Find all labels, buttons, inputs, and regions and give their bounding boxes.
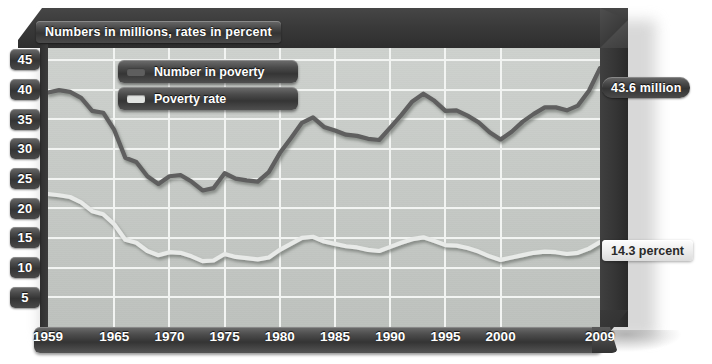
chart-subtitle-pill: Numbers in millions, rates in percent (36, 21, 281, 43)
callout-poverty-rate: 14.3 percent (602, 240, 693, 261)
chart-subtitle-text: Numbers in millions, rates in percent (45, 25, 272, 39)
y-axis-tick-10: 10 (10, 257, 40, 278)
legend-label-poverty-rate: Poverty rate (154, 92, 226, 106)
x-axis-tick-1980: 1980 (265, 329, 295, 344)
legend-item-number-in-poverty[interactable]: Number in poverty (118, 60, 298, 83)
legend-swatch-icon-poverty-rate (127, 95, 145, 103)
x-axis-tick-1990: 1990 (375, 329, 405, 344)
y-axis-tick-15: 15 (10, 227, 40, 248)
callout-number-in-poverty: 43.6 million (602, 77, 690, 98)
callout-number-in-poverty-text: 43.6 million (611, 81, 681, 95)
x-axis-tick-1975: 1975 (210, 329, 240, 344)
y-axis-tick-25: 25 (10, 168, 40, 189)
legend-item-poverty-rate[interactable]: Poverty rate (118, 87, 298, 110)
poverty-chart-figure: 45403530252015105 Numbers in millions, r… (0, 0, 712, 364)
y-axis-tick-20: 20 (10, 198, 40, 219)
x-axis-tick-2000: 2000 (486, 329, 516, 344)
x-axis-tick-2009: 2009 (585, 329, 615, 344)
y-axis-tick-30: 30 (10, 138, 40, 159)
x-axis-tick-1985: 1985 (320, 329, 350, 344)
frame-corner-shadow (612, 330, 682, 352)
x-axis-tick-1965: 1965 (99, 329, 129, 344)
chart-legend: Number in poverty Poverty rate (118, 60, 298, 114)
frame-left-edge (40, 44, 48, 330)
y-axis-tick-35: 35 (10, 109, 40, 130)
callout-poverty-rate-text: 14.3 percent (611, 244, 684, 258)
legend-label-number-in-poverty: Number in poverty (154, 65, 264, 79)
legend-swatch-icon-number-in-poverty (127, 68, 145, 76)
y-axis-tick-40: 40 (10, 79, 40, 100)
x-axis-tick-1959: 1959 (33, 329, 63, 344)
y-axis-tick-45: 45 (10, 49, 40, 70)
x-axis-tick-1995: 1995 (430, 329, 460, 344)
series-line-poverty-rate (48, 194, 600, 261)
x-axis-tick-1970: 1970 (154, 329, 184, 344)
y-axis-tick-5: 5 (10, 287, 40, 308)
